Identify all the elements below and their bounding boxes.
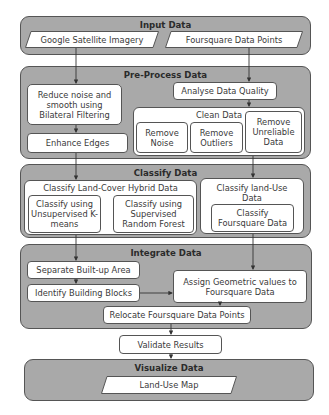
step-unsupervised-kmeans: Classify using Unsupervised K-means [28,195,101,233]
step-validate-results: Validate Results [119,335,222,354]
group-title: Classify Land-Cover Hybrid Data [25,183,196,193]
section-title: Integrate Data [21,248,311,258]
input-foursquare-data-points: Foursquare Data Points [165,31,303,48]
step-analyse-data-quality: Analyse Data Quality [173,82,277,100]
output-land-use-map: Land-Use Map [101,376,237,394]
group-title: Classify land-Use Data [201,183,303,203]
step-classify-foursquare: Classify Foursquare Data [211,204,294,232]
step-reduce-noise: Reduce noise and smooth using Bilateral … [27,84,122,125]
step-separate-built-up-area: Separate Built-up Area [27,261,140,279]
step-relocate-foursquare-points: Relocate Foursquare Data Points [103,306,251,324]
input-google-satellite-imagery: Google Satellite Imagery [25,31,159,48]
step-remove-unreliable-data: Remove Unreliable Data [245,111,302,153]
step-identify-building-blocks: Identify Building Blocks [27,284,140,302]
section-title: Visualize Data [25,363,313,373]
step-remove-noise: Remove Noise [136,122,188,153]
section-title: Input Data [21,20,310,30]
step-assign-geometric-values: Assign Geometric values to Foursquare Da… [173,270,307,303]
step-enhance-edges: Enhance Edges [27,133,128,153]
section-title: Classify Data [21,168,310,178]
step-supervised-random-forest: Classify using Supervised Random Forest [113,195,194,233]
step-remove-outliers: Remove Outliers [190,122,243,153]
section-title: Pre-Process Data [21,70,310,80]
